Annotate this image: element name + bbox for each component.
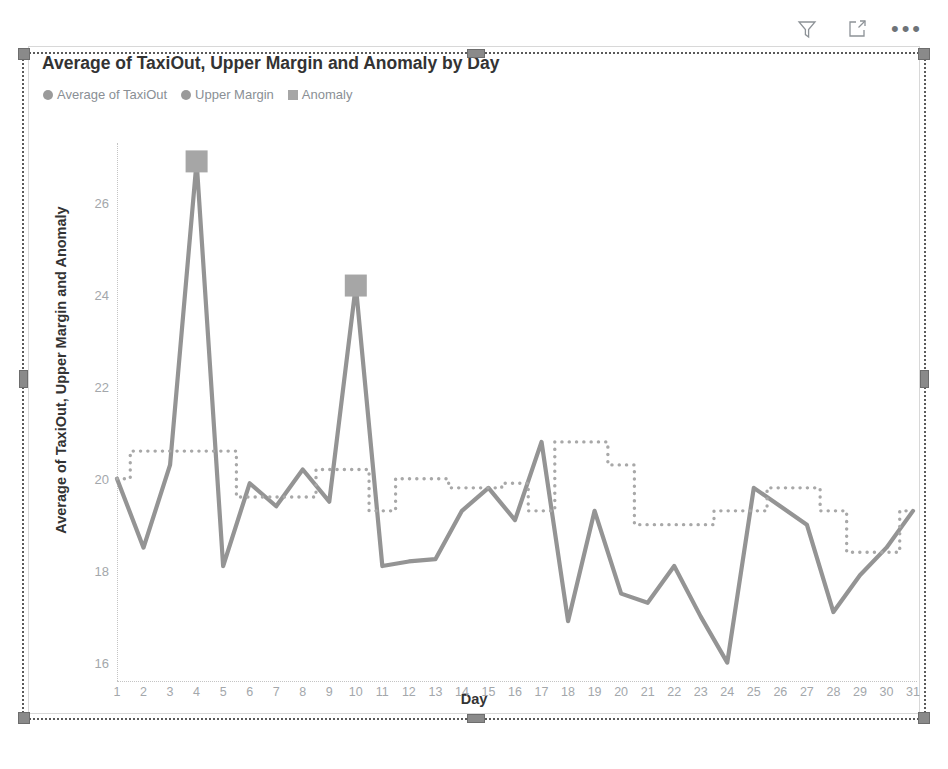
x-axis-ticks: 1234567891011121314151617181920212223242… xyxy=(29,685,921,705)
x-tick-label: 10 xyxy=(344,685,368,699)
x-tick-label: 31 xyxy=(901,685,925,699)
x-tick-label: 18 xyxy=(556,685,580,699)
focus-mode-icon[interactable] xyxy=(844,16,870,42)
x-tick-label: 2 xyxy=(132,685,156,699)
legend-item-taxiout[interactable]: Average of TaxiOut xyxy=(43,87,167,102)
x-tick-label: 28 xyxy=(821,685,845,699)
x-tick-label: 19 xyxy=(583,685,607,699)
y-axis-ticks: 161820222426 xyxy=(65,47,109,715)
x-tick-label: 17 xyxy=(530,685,554,699)
visual-header-toolbar[interactable]: ••• xyxy=(794,8,920,50)
legend-label-taxiout: Average of TaxiOut xyxy=(57,87,167,102)
legend-item-upper-margin[interactable]: Upper Margin xyxy=(181,87,274,102)
anomaly-marker[interactable] xyxy=(345,275,367,297)
x-tick-label: 21 xyxy=(636,685,660,699)
x-tick-label: 16 xyxy=(503,685,527,699)
legend-marker-circle-icon xyxy=(181,90,191,100)
x-tick-label: 22 xyxy=(662,685,686,699)
x-tick-label: 11 xyxy=(370,685,394,699)
y-axis-line xyxy=(117,143,118,681)
x-tick-label: 1 xyxy=(105,685,129,699)
y-tick-label: 16 xyxy=(69,655,109,670)
x-tick-label: 25 xyxy=(742,685,766,699)
x-tick-label: 15 xyxy=(476,685,500,699)
chart-title: Average of TaxiOut, Upper Margin and Ano… xyxy=(42,53,499,74)
y-tick-label: 26 xyxy=(69,195,109,210)
chart-legend[interactable]: Average of TaxiOut Upper Margin Anomaly xyxy=(43,87,352,102)
resize-handle-middle-left[interactable] xyxy=(19,370,28,388)
upper-margin-line[interactable] xyxy=(117,442,913,552)
resize-handle-bottom-center[interactable] xyxy=(467,714,485,723)
resize-handle-middle-right[interactable] xyxy=(920,370,929,388)
y-axis-title: Average of TaxiOut, Upper Margin and Ano… xyxy=(53,170,69,570)
x-tick-label: 14 xyxy=(450,685,474,699)
x-tick-label: 24 xyxy=(715,685,739,699)
legend-marker-circle-icon xyxy=(43,90,53,100)
x-tick-label: 20 xyxy=(609,685,633,699)
powerbi-visual-container[interactable]: ••• Average of TaxiOut, Upper Margin and… xyxy=(22,8,926,720)
chart-card[interactable]: Average of TaxiOut, Upper Margin and Ano… xyxy=(28,46,920,714)
x-axis-line xyxy=(117,681,917,682)
x-tick-label: 5 xyxy=(211,685,235,699)
x-tick-label: 26 xyxy=(768,685,792,699)
legend-label-upper-margin: Upper Margin xyxy=(195,87,274,102)
series-layer xyxy=(29,47,921,715)
legend-marker-square-icon xyxy=(288,90,298,100)
x-tick-label: 8 xyxy=(291,685,315,699)
x-tick-label: 27 xyxy=(795,685,819,699)
x-axis-title: Day xyxy=(29,691,919,707)
legend-label-anomaly: Anomaly xyxy=(302,87,353,102)
x-tick-label: 6 xyxy=(238,685,262,699)
more-options-icon[interactable]: ••• xyxy=(894,16,920,42)
x-tick-label: 29 xyxy=(848,685,872,699)
x-tick-label: 4 xyxy=(185,685,209,699)
x-tick-label: 23 xyxy=(689,685,713,699)
x-tick-label: 9 xyxy=(317,685,341,699)
y-tick-label: 22 xyxy=(69,379,109,394)
taxiout-line[interactable] xyxy=(117,161,913,662)
y-tick-label: 18 xyxy=(69,563,109,578)
legend-item-anomaly[interactable]: Anomaly xyxy=(288,87,353,102)
more-options-label: ••• xyxy=(891,24,923,34)
x-tick-label: 13 xyxy=(423,685,447,699)
x-tick-label: 12 xyxy=(397,685,421,699)
y-tick-label: 24 xyxy=(69,287,109,302)
plot-area: Average of TaxiOut, Upper Margin and Ano… xyxy=(29,47,919,713)
x-tick-label: 7 xyxy=(264,685,288,699)
y-tick-label: 20 xyxy=(69,471,109,486)
x-tick-label: 3 xyxy=(158,685,182,699)
filter-funnel-icon[interactable] xyxy=(794,16,820,42)
x-tick-label: 30 xyxy=(874,685,898,699)
anomaly-marker[interactable] xyxy=(186,150,208,172)
